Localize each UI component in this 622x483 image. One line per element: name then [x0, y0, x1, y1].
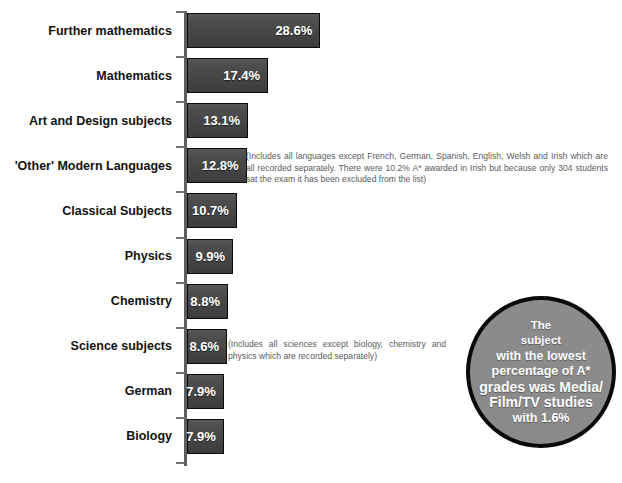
callout-line-7: with 1.6%	[479, 411, 603, 427]
bar-value-label: 10.7%	[192, 203, 236, 218]
bar: 13.1%	[187, 103, 248, 138]
chart-title	[186, 0, 486, 3]
axis-tick	[176, 372, 185, 374]
bar-value-label: 8.8%	[190, 294, 227, 309]
callout-line-5: grades was Media/	[479, 380, 603, 396]
bar-value-label: 12.8%	[202, 158, 246, 173]
category-label: Physics	[125, 249, 172, 263]
bar: 17.4%	[187, 58, 268, 93]
bar: 10.7%	[187, 193, 237, 228]
axis-tick	[176, 237, 185, 239]
bar: 9.9%	[187, 239, 233, 274]
lowest-percentage-callout: The subject with the lowest percentage o…	[466, 296, 616, 448]
category-label: Art and Design subjects	[29, 114, 172, 128]
axis-tick	[176, 146, 185, 148]
axis-tick	[176, 282, 185, 284]
callout-line-6: Film/TV studies	[479, 395, 603, 411]
bar-value-label: 17.4%	[223, 68, 267, 83]
axis-tick	[176, 462, 185, 464]
category-label: Chemistry	[111, 294, 172, 308]
category-label: Mathematics	[96, 69, 172, 83]
callout-line-4: percentage of A*	[479, 364, 603, 380]
callout-line-3: with the lowest	[479, 349, 603, 365]
axis-tick	[176, 11, 185, 13]
bar-value-label: 13.1%	[203, 113, 247, 128]
axis-tick	[176, 417, 185, 419]
bar-chart: Further mathematics28.6%Mathematics17.4%…	[0, 0, 622, 483]
annotation-modern-languages: (Includes all languages except French, G…	[246, 151, 608, 186]
bar: 7.9%	[187, 419, 224, 454]
bar-value-label: 7.9%	[186, 384, 223, 399]
category-label: 'Other' Modern Languages	[15, 159, 172, 173]
category-label: German	[125, 384, 172, 398]
bar-value-label: 9.9%	[195, 249, 232, 264]
category-label: Further mathematics	[48, 24, 172, 38]
bar-value-label: 28.6%	[275, 23, 319, 38]
axis-tick	[176, 191, 185, 193]
callout-line-2: subject	[479, 333, 603, 349]
callout-line-1: The	[479, 318, 603, 334]
bar: 28.6%	[187, 13, 320, 48]
category-label: Biology	[126, 429, 172, 443]
category-label: Classical Subjects	[62, 204, 172, 218]
annotation-science-subjects: (Includes all sciences except biology, c…	[228, 339, 446, 362]
bar: 7.9%	[187, 374, 224, 409]
bar: 8.6%	[187, 329, 227, 364]
axis-tick	[176, 327, 185, 329]
axis-tick	[176, 56, 185, 58]
bar: 8.8%	[187, 284, 228, 319]
bar-value-label: 8.6%	[189, 339, 226, 354]
bar: 12.8%	[187, 148, 247, 183]
bar-value-label: 7.9%	[186, 429, 223, 444]
axis-tick	[176, 101, 185, 103]
category-label: Science subjects	[71, 339, 172, 353]
